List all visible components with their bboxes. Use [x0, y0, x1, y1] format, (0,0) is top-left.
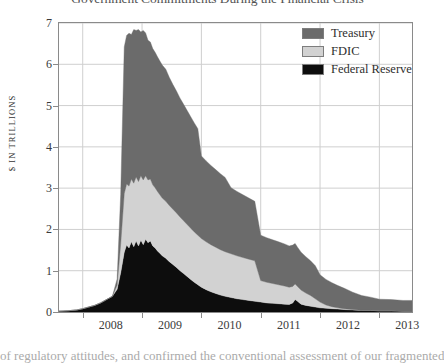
legend-swatch-icon — [302, 28, 324, 39]
y-tick-label: 1 — [6, 263, 52, 278]
legend-item[interactable]: FDIC — [302, 44, 412, 59]
y-tick-label: 7 — [6, 16, 52, 31]
chart-title: Government Commitments During the Financ… — [0, 0, 435, 7]
x-tick-mark — [201, 313, 202, 318]
x-tick-label: 2011 — [259, 318, 319, 333]
x-tick-label: 2008 — [81, 318, 141, 333]
legend-item[interactable]: Federal Reserve — [302, 62, 412, 77]
legend-item[interactable]: Treasury — [302, 26, 412, 41]
legend-swatch-icon — [302, 46, 324, 57]
y-tick-label: 6 — [6, 57, 52, 72]
y-tick-mark — [53, 312, 58, 313]
y-tick-mark — [53, 147, 58, 148]
x-tick-mark — [142, 313, 143, 318]
legend-label: FDIC — [331, 45, 359, 58]
y-tick-label: 0 — [6, 305, 52, 320]
y-tick-mark — [53, 229, 58, 230]
x-tick-label: 2013 — [377, 318, 437, 333]
chart-legend: TreasuryFDICFederal Reserve — [302, 26, 412, 77]
page-caption: of regulatory attitudes, and confirmed t… — [0, 348, 435, 364]
x-tick-mark — [261, 313, 262, 318]
y-tick-mark — [53, 64, 58, 65]
y-tick-mark — [53, 271, 58, 272]
x-tick-mark — [379, 313, 380, 318]
x-tick-label: 2010 — [199, 318, 259, 333]
x-tick-mark — [83, 313, 84, 318]
y-tick-mark — [53, 188, 58, 189]
y-tick-mark — [53, 106, 58, 107]
legend-label: Treasury — [331, 27, 375, 40]
legend-label: Federal Reserve — [331, 63, 412, 76]
y-tick-label: 2 — [6, 222, 52, 237]
x-tick-label: 2009 — [140, 318, 200, 333]
x-tick-mark — [320, 313, 321, 318]
x-tick-label: 2012 — [318, 318, 378, 333]
legend-swatch-icon — [302, 64, 324, 75]
y-axis-title: $ IN TRILLIONS — [7, 83, 17, 183]
